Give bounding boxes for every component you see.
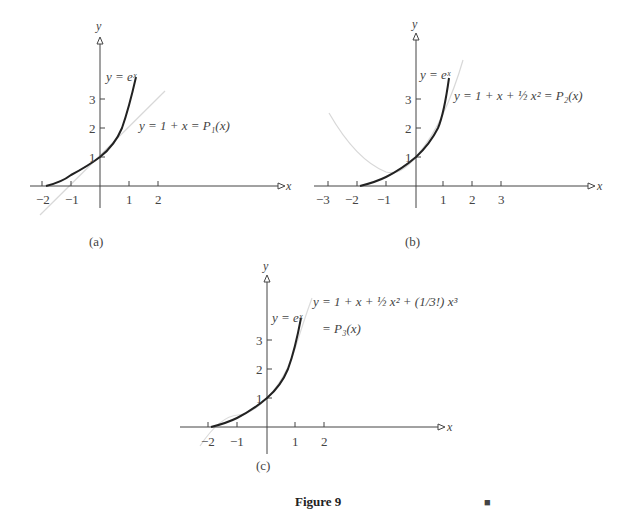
x-tick-label: 1 — [126, 192, 133, 207]
x-tick-label: −1 — [230, 434, 244, 449]
y-tick-label: 1 — [405, 150, 412, 165]
y-axis-label: y — [262, 259, 269, 273]
x-tick-label: −2 — [345, 192, 359, 207]
y-tick-label: 3 — [256, 333, 263, 348]
panel-label: (b) — [405, 234, 420, 249]
p1-curve — [40, 91, 165, 215]
y-axis-arrow-icon — [413, 33, 419, 40]
p1-curve-label: y = 1 + x = P₁(x) — [137, 118, 230, 133]
y-axis-label: y — [95, 19, 102, 33]
x-tick-label: −3 — [316, 192, 330, 207]
figure-9: −2 −1 1 2 1 2 3 x y y = eˣ y = 1 + x = P… — [0, 0, 634, 509]
y-tick-label: 2 — [405, 121, 412, 136]
x-tick-label: 1 — [292, 434, 299, 449]
panel-a: −2 −1 1 2 1 2 3 x y y = eˣ y = 1 + x = P… — [30, 19, 292, 249]
y-tick-label: 2 — [256, 362, 263, 377]
exp-curve-label: y = eˣ — [418, 67, 451, 82]
x-tick-label: 2 — [321, 434, 328, 449]
y-axis-arrow-icon — [264, 275, 270, 282]
panel-label: (c) — [256, 458, 270, 473]
y-tick-label: 3 — [89, 92, 96, 107]
x-axis-arrow-icon — [438, 424, 445, 430]
y-tick-label: 3 — [405, 92, 412, 107]
x-axis-arrow-icon — [588, 183, 595, 189]
x-axis-label: x — [285, 179, 292, 193]
figure-caption: Figure 9 — [295, 494, 342, 509]
exp-curve-label: y = eˣ — [104, 69, 137, 84]
end-of-proof-mark: ■ — [484, 496, 491, 508]
x-tick-label: −2 — [201, 434, 215, 449]
ticks — [208, 340, 324, 427]
x-tick-label: 3 — [498, 192, 505, 207]
x-tick-label: −1 — [377, 192, 391, 207]
x-tick-label: 2 — [469, 192, 476, 207]
y-axis-label: y — [411, 17, 418, 31]
p2-curve-label: y = 1 + x + ½ x² = P₂(x) — [452, 88, 583, 103]
x-tick-label: 1 — [440, 192, 447, 207]
y-tick-label: 1 — [256, 391, 263, 406]
y-axis-arrow-icon — [97, 37, 103, 44]
exp-curve-label: y = eˣ — [270, 310, 303, 325]
x-tick-label: −1 — [65, 192, 79, 207]
panel-c: −2 −1 1 2 1 2 3 x y y = eˣ y = 1 + x + ½… — [180, 259, 458, 473]
panel-label: (a) — [89, 234, 103, 249]
y-tick-label: 2 — [89, 121, 96, 136]
ticks — [328, 99, 501, 186]
y-tick-label: 1 — [89, 150, 96, 165]
x-axis-arrow-icon — [278, 183, 285, 189]
x-tick-label: −2 — [36, 192, 50, 207]
p3-curve-label-line2: = P₃(x) — [322, 321, 361, 336]
x-axis-label: x — [446, 420, 453, 434]
panel-b: −3 −2 −1 1 2 3 1 2 3 x y y = eˣ y = 1 + … — [314, 17, 603, 249]
x-axis-label: x — [596, 179, 603, 193]
x-tick-label: 2 — [155, 192, 162, 207]
p3-curve-label-line1: y = 1 + x + ½ x² + (1/3!) x³ — [311, 294, 458, 309]
